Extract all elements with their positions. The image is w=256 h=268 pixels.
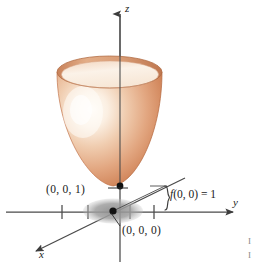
page-edge-mark-2: I [248,250,251,260]
surface-highlight-core [70,95,92,125]
origin-point [109,207,116,214]
function-args: (0, 0) [173,188,198,200]
height-brace [165,186,170,210]
y-axis-label: y [233,196,238,208]
page-edge-mark-1: I [248,236,251,246]
origin-point-label: (0, 0, 0) [122,224,161,236]
x-axis-label: x [39,248,44,260]
paraboloid-surface [57,56,162,186]
function-value-annotation: f(0, 0) = 1 [170,188,216,200]
z-axis-label: z [125,2,129,14]
function-equals: = 1 [198,188,216,200]
vertex-point-label: (0, 0, 1) [46,183,85,195]
